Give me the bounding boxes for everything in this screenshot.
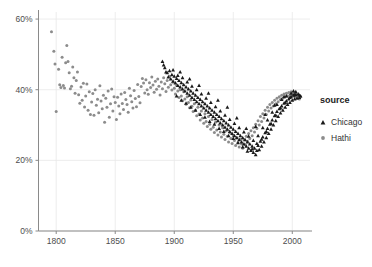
data-point-hathi bbox=[266, 106, 269, 109]
legend-marker-chicago[interactable] bbox=[321, 120, 326, 124]
y-tick-label: 40% bbox=[15, 85, 32, 95]
data-point-chicago bbox=[188, 77, 192, 81]
data-point-hathi bbox=[206, 125, 209, 128]
data-point-hathi bbox=[54, 62, 57, 65]
data-point-hathi bbox=[89, 113, 92, 116]
data-point-hathi bbox=[79, 85, 82, 88]
data-point-chicago bbox=[266, 127, 270, 131]
data-point-hathi bbox=[152, 84, 155, 87]
data-point-chicago bbox=[190, 84, 194, 88]
data-point-hathi bbox=[227, 140, 230, 143]
data-point-hathi bbox=[259, 115, 262, 118]
data-point-chicago bbox=[197, 83, 201, 87]
data-point-hathi bbox=[180, 95, 183, 98]
data-point-chicago bbox=[218, 109, 222, 113]
data-point-hathi bbox=[196, 106, 199, 109]
data-point-chicago bbox=[176, 74, 180, 78]
data-point-hathi bbox=[147, 93, 150, 96]
data-point-chicago bbox=[207, 91, 211, 95]
data-point-hathi bbox=[131, 107, 134, 110]
data-point-hathi bbox=[251, 134, 254, 137]
x-tick-label: 1850 bbox=[106, 236, 125, 246]
data-point-hathi bbox=[135, 105, 138, 108]
data-point-hathi bbox=[75, 79, 78, 82]
data-point-hathi bbox=[85, 83, 88, 86]
data-point-hathi bbox=[111, 109, 114, 112]
data-point-hathi bbox=[61, 56, 64, 59]
data-point-hathi bbox=[59, 86, 62, 89]
data-point-hathi bbox=[146, 88, 149, 91]
data-point-hathi bbox=[219, 131, 222, 134]
data-point-hathi bbox=[95, 104, 98, 107]
data-point-hathi bbox=[273, 99, 276, 102]
data-point-hathi bbox=[97, 111, 100, 114]
data-point-hathi bbox=[50, 30, 53, 33]
data-point-hathi bbox=[261, 112, 264, 115]
data-point-hathi bbox=[91, 92, 94, 95]
data-point-chicago bbox=[223, 113, 227, 117]
data-point-hathi bbox=[159, 94, 162, 97]
data-point-hathi bbox=[74, 92, 77, 95]
data-point-hathi bbox=[127, 111, 130, 114]
data-point-chicago bbox=[214, 105, 218, 109]
data-point-hathi bbox=[153, 91, 156, 94]
data-point-chicago bbox=[264, 136, 268, 140]
data-point-hathi bbox=[52, 50, 55, 53]
data-point-hathi bbox=[209, 128, 212, 131]
data-point-hathi bbox=[169, 83, 172, 86]
data-point-hathi bbox=[118, 112, 121, 115]
data-point-hathi bbox=[277, 100, 280, 103]
data-point-hathi bbox=[137, 95, 140, 98]
data-point-chicago bbox=[237, 126, 241, 130]
y-tick-label: 0% bbox=[20, 226, 33, 236]
data-point-hathi bbox=[238, 145, 241, 148]
data-point-hathi bbox=[136, 83, 139, 86]
data-point-chicago bbox=[228, 117, 232, 121]
data-point-chicago bbox=[217, 127, 221, 131]
data-point-hathi bbox=[81, 99, 84, 102]
data-point-hathi bbox=[268, 103, 271, 106]
data-point-chicago bbox=[242, 130, 246, 134]
y-axis-tick-labels: 0%20%40%60% bbox=[15, 14, 32, 236]
data-point-hathi bbox=[104, 97, 107, 100]
data-point-chicago bbox=[181, 76, 185, 80]
data-point-hathi bbox=[154, 80, 157, 83]
scatter-chart: 0%20%40%60% 18001850190019502000 sourceC… bbox=[0, 0, 372, 267]
data-point-hathi bbox=[63, 86, 66, 89]
legend-marker-hathi[interactable] bbox=[321, 136, 325, 140]
data-point-hathi bbox=[87, 109, 90, 112]
data-point-hathi bbox=[77, 93, 80, 96]
data-point-hathi bbox=[84, 95, 87, 98]
data-point-hathi bbox=[129, 94, 132, 97]
data-point-hathi bbox=[58, 83, 61, 86]
data-point-chicago bbox=[244, 127, 248, 131]
data-point-hathi bbox=[257, 119, 260, 122]
data-point-hathi bbox=[123, 91, 126, 94]
data-point-chicago bbox=[270, 118, 274, 122]
data-point-hathi bbox=[134, 97, 137, 100]
data-point-hathi bbox=[156, 78, 159, 81]
data-point-hathi bbox=[120, 92, 123, 95]
data-point-chicago bbox=[260, 144, 264, 148]
data-point-chicago bbox=[261, 126, 265, 130]
data-point-hathi bbox=[253, 131, 256, 134]
data-point-hathi bbox=[205, 120, 208, 123]
data-point-chicago bbox=[216, 98, 220, 102]
data-point-hathi bbox=[110, 88, 113, 91]
data-point-hathi bbox=[116, 96, 119, 99]
data-point-hathi bbox=[213, 131, 216, 134]
data-point-hathi bbox=[114, 101, 117, 104]
legend-label-hathi[interactable]: Hathi bbox=[331, 133, 351, 143]
data-point-hathi bbox=[108, 116, 111, 119]
data-point-hathi bbox=[94, 88, 97, 91]
data-point-hathi bbox=[68, 71, 71, 74]
data-point-hathi bbox=[216, 133, 219, 136]
data-point-hathi bbox=[187, 101, 190, 104]
data-point-hathi bbox=[107, 90, 110, 93]
data-point-hathi bbox=[222, 133, 225, 136]
legend-label-chicago[interactable]: Chicago bbox=[331, 117, 362, 127]
data-point-hathi bbox=[121, 102, 124, 105]
data-point-hathi bbox=[157, 85, 160, 88]
x-tick-label: 1900 bbox=[165, 236, 184, 246]
data-point-hathi bbox=[122, 108, 125, 111]
